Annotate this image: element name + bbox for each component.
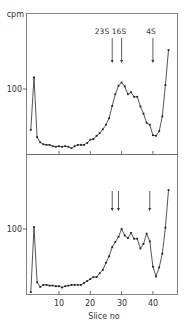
xtick-label-30: 30 <box>117 299 127 308</box>
y-axis-label: cpm <box>7 10 24 19</box>
data-point <box>39 141 41 143</box>
data-point <box>49 285 51 287</box>
data-point <box>136 238 138 240</box>
data-point <box>111 105 113 107</box>
bottom-panel-points <box>30 189 170 293</box>
data-point <box>111 246 113 248</box>
data-point <box>102 128 104 130</box>
arrowhead-icon <box>151 60 154 63</box>
data-point <box>33 76 35 78</box>
data-point <box>155 276 157 278</box>
data-point <box>155 135 157 137</box>
data-point <box>42 284 44 286</box>
data-point <box>127 237 129 239</box>
data-point <box>161 253 163 255</box>
arrowhead-icon <box>111 60 114 63</box>
data-point <box>89 139 91 141</box>
data-point <box>55 146 57 148</box>
x-axis-label: Slice no <box>88 312 119 321</box>
data-point <box>158 267 160 269</box>
arrowhead-icon <box>117 208 120 211</box>
data-point <box>52 285 54 287</box>
data-point <box>83 144 85 146</box>
data-point <box>168 189 170 191</box>
xtick-label-20: 20 <box>85 299 95 308</box>
top-panel: 100 cpm 23S 16S 4S <box>7 10 178 155</box>
top-panel-arrows <box>111 38 155 63</box>
data-point <box>130 232 132 234</box>
data-point <box>133 96 135 98</box>
annotation-23s: 23S <box>95 27 110 36</box>
arrowhead-icon <box>120 60 123 63</box>
data-point <box>102 269 104 271</box>
bottom-panel-xticks <box>59 291 153 294</box>
data-point <box>127 93 129 95</box>
data-point <box>77 284 79 286</box>
top-panel-xticks <box>59 151 153 154</box>
data-point <box>83 282 85 284</box>
bottom-panel-curve <box>31 190 169 292</box>
data-point <box>93 138 95 140</box>
xtick-label-40: 40 <box>148 299 158 308</box>
data-point <box>140 106 142 108</box>
data-point <box>58 145 60 147</box>
data-point <box>99 272 101 274</box>
data-point <box>158 130 160 132</box>
data-point <box>61 287 63 289</box>
data-point <box>118 85 120 87</box>
data-point <box>86 280 88 282</box>
data-point <box>108 117 110 119</box>
top-panel-points <box>30 49 170 149</box>
data-point <box>99 132 101 134</box>
data-point <box>61 146 63 148</box>
data-point <box>152 134 154 136</box>
data-point <box>68 146 70 148</box>
sedimentation-profile-figure: 100 cpm 23S 16S 4S 100 10 20 30 40 Slice… <box>0 0 187 331</box>
data-point <box>58 285 60 287</box>
data-point <box>143 243 145 245</box>
data-point <box>149 240 151 242</box>
data-point <box>93 276 95 278</box>
bottom-ytick-label: 100 <box>7 225 22 234</box>
data-point <box>96 135 98 137</box>
data-point <box>39 286 41 288</box>
annotation-16s: 16S <box>112 27 127 36</box>
annotation-4s: 4S <box>146 27 156 36</box>
data-point <box>114 93 116 95</box>
data-point <box>74 145 76 147</box>
data-point <box>64 285 66 287</box>
data-point <box>114 241 116 243</box>
data-point <box>136 96 138 98</box>
data-point <box>49 144 51 146</box>
data-point <box>146 122 148 124</box>
data-point <box>96 276 98 278</box>
data-point <box>121 228 123 230</box>
data-point <box>143 113 145 115</box>
data-point <box>133 238 135 240</box>
data-point <box>42 143 44 145</box>
data-point <box>105 262 107 264</box>
data-point <box>146 233 148 235</box>
data-point <box>80 144 82 146</box>
bottom-panel-arrows <box>111 191 152 211</box>
data-point <box>52 145 54 147</box>
data-point <box>130 91 132 93</box>
data-point <box>64 145 66 147</box>
data-point <box>152 266 154 268</box>
data-point <box>46 284 48 286</box>
data-point <box>140 248 142 250</box>
data-point <box>74 284 76 286</box>
data-point <box>68 285 70 287</box>
data-point <box>121 82 123 84</box>
data-point <box>165 227 167 229</box>
data-point <box>149 124 151 126</box>
data-point <box>168 49 170 51</box>
top-ytick-label: 100 <box>7 85 22 94</box>
data-point <box>36 281 38 283</box>
data-point <box>30 291 32 293</box>
data-point <box>108 255 110 257</box>
data-point <box>46 144 48 146</box>
data-point <box>161 115 163 117</box>
data-point <box>124 235 126 237</box>
data-point <box>80 284 82 286</box>
